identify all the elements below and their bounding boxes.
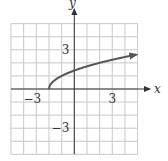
graph: x y −333−3 — [0, 0, 168, 161]
axes — [11, 9, 150, 154]
y-tick-label: 3 — [62, 43, 70, 57]
y-tick-label: −3 — [52, 121, 70, 135]
x-tick-label: −3 — [23, 92, 41, 106]
x-axis-label: x — [154, 82, 161, 96]
y-axis-label: y — [68, 0, 76, 10]
x-tick-label: 3 — [108, 92, 116, 106]
